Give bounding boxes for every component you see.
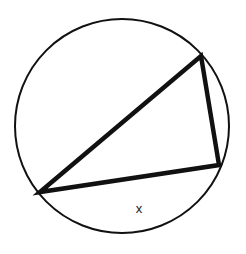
inscribed-triangle-diagram: x bbox=[0, 0, 246, 254]
inscribed-triangle bbox=[40, 56, 219, 192]
arc-label-x: x bbox=[136, 201, 143, 216]
circumscribed-circle bbox=[15, 19, 229, 233]
